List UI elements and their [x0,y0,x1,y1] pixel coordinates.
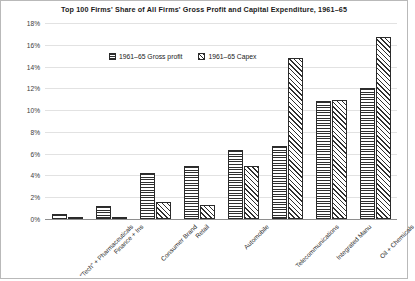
y-tick-label: 8% [30,128,40,135]
x-axis-label: Retail [194,223,211,240]
bar-gross-profit[interactable] [96,206,111,219]
y-tick-label: 0% [30,216,40,223]
chart-figure: Top 100 Firms' Share of All Firms' Gross… [0,0,408,279]
chart-legend: 1961–65 Gross profit 1961–65 Capex [109,53,256,60]
legend-swatch-gross-profit-icon [109,53,116,60]
bar-group [353,23,397,219]
bar-capex[interactable] [376,37,391,219]
y-tick-label: 10% [27,107,40,114]
y-tick-label: 18% [27,20,40,27]
x-label-cell: “Tech” + Pharmaceuticals [45,221,89,279]
bar-group [309,23,353,219]
x-label-cell: Automobile [221,221,265,279]
bar-capex[interactable] [156,202,171,219]
y-tick-label: 2% [30,194,40,201]
x-label-cell: Retail [177,221,221,279]
bar-gross-profit[interactable] [228,150,243,219]
x-label-cell: Oil + Chemicals [353,221,397,279]
y-tick-label: 6% [30,150,40,157]
y-tick-label: 16% [27,41,40,48]
x-axis-labels: “Tech” + PharmaceuticalsFinance + InsCon… [45,221,397,279]
y-tick-label: 14% [27,63,40,70]
bar-gross-profit[interactable] [360,88,375,219]
bar-capex[interactable] [112,217,127,219]
x-axis-line [45,219,397,220]
legend-label-capex: 1961–65 Capex [208,53,256,60]
x-label-cell: Finance + Ins [89,221,133,279]
bar-gross-profit[interactable] [140,173,155,219]
bar-gross-profit[interactable] [52,214,67,219]
chart-title: Top 100 Firms' Share of All Firms' Gross… [1,5,407,14]
bar-capex[interactable] [288,58,303,219]
x-axis-label: Oil + Chemicals [378,223,415,260]
bar-group [265,23,309,219]
legend-item-gross-profit: 1961–65 Gross profit [109,53,182,60]
bar-gross-profit[interactable] [272,146,287,219]
bar-group [45,23,89,219]
bar-capex[interactable] [200,205,215,219]
bar-capex[interactable] [332,100,347,219]
x-label-cell: Integrated Manu [309,221,353,279]
y-tick-label: 4% [30,172,40,179]
bar-gross-profit[interactable] [316,101,331,219]
y-tick-label: 12% [27,85,40,92]
legend-label-gross-profit: 1961–65 Gross profit [119,53,182,60]
x-label-cell: Consumer Brand [133,221,177,279]
legend-item-capex: 1961–65 Capex [198,53,256,60]
legend-swatch-capex-icon [198,53,205,60]
bar-capex[interactable] [244,166,259,219]
bar-capex[interactable] [68,217,83,219]
x-label-cell: Telecommunications [265,221,309,279]
bar-gross-profit[interactable] [184,166,199,219]
